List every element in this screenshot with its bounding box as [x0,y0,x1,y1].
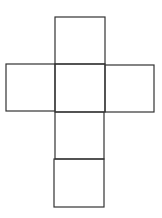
cube-face-lower [55,112,104,159]
cube-face-center [55,64,105,112]
cube-net-diagram [0,0,162,218]
cube-face-bottom [54,159,104,207]
cube-face-left [6,64,55,111]
cube-face-top [55,17,105,64]
cube-face-right [105,65,154,112]
